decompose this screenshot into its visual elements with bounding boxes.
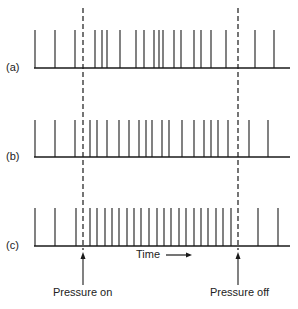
row-label-c: (c): [6, 239, 19, 251]
pressure-off-label: Pressure off: [210, 286, 269, 298]
spike-train-diagram: [0, 0, 298, 309]
pressure-on-label: Pressure on: [53, 286, 112, 298]
time-label: Time: [136, 248, 160, 260]
row-label-a: (a): [6, 61, 19, 73]
row-label-b: (b): [6, 150, 19, 162]
arrow-up-icon: [236, 252, 241, 259]
time-axis-label: Time: [136, 248, 192, 261]
arrow-right-icon: [166, 249, 192, 261]
arrow-up-icon: [81, 252, 86, 259]
